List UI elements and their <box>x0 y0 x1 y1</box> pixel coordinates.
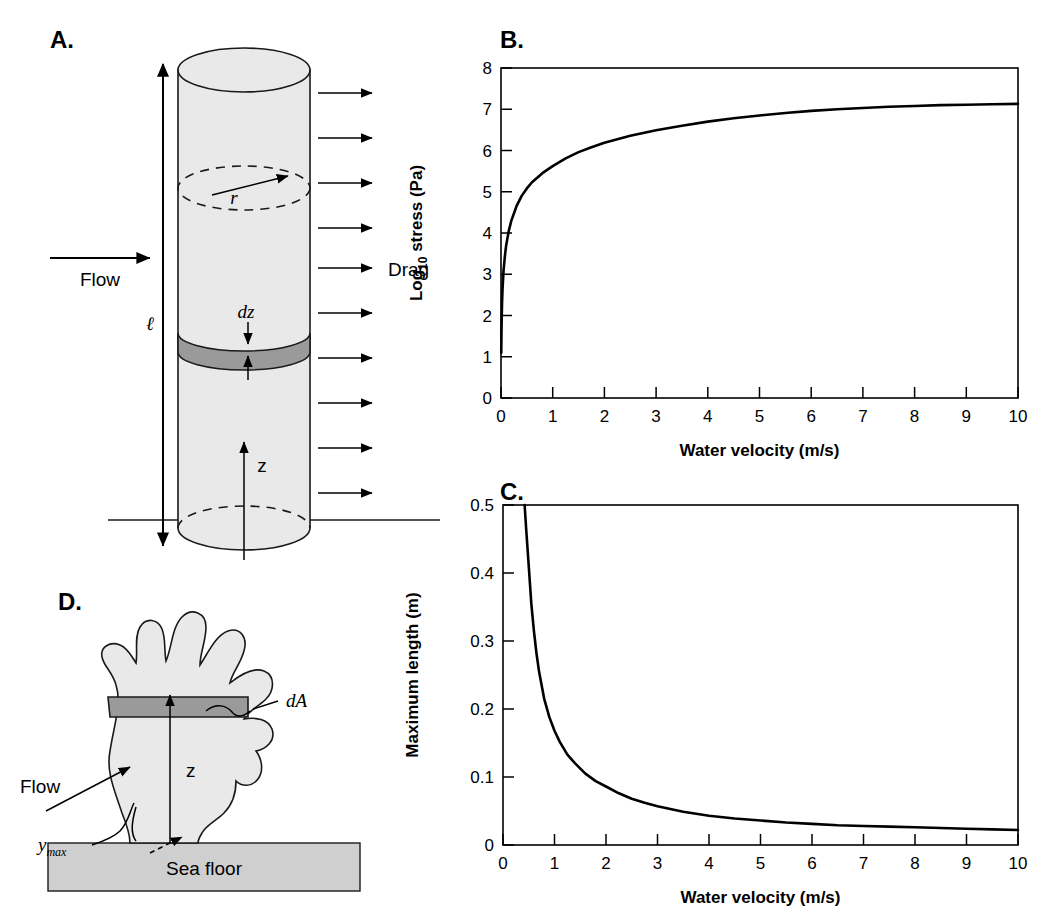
y-axis-title: Log10 stress (Pa) <box>407 165 430 301</box>
x-tick-label: 1 <box>548 407 557 426</box>
y-max-label: ymax <box>36 834 67 859</box>
drag-arrow-group <box>318 93 372 493</box>
radius-label: r <box>230 187 238 208</box>
y-max-subscript: max <box>46 845 67 859</box>
x-tick-label: 3 <box>651 407 660 426</box>
x-tick-label: 9 <box>962 854 971 873</box>
panel-c-chart: 01234567891000.10.20.30.40.5Water veloci… <box>400 470 1058 924</box>
x-tick-label: 4 <box>703 407 712 426</box>
x-tick-label: 8 <box>910 854 919 873</box>
length-label: ℓ <box>146 313 154 334</box>
x-tick-label: 2 <box>600 407 609 426</box>
organism-body <box>102 612 273 843</box>
y-max-base: y <box>36 834 47 855</box>
plot-frame <box>501 68 1018 398</box>
x-tick-label: 7 <box>859 854 868 873</box>
x-tick-label: 10 <box>1009 407 1028 426</box>
y-tick-label: 0.4 <box>470 564 494 583</box>
y-tick-label: 2 <box>483 307 492 326</box>
y-tick-label: 5 <box>483 183 492 202</box>
data-curve <box>501 104 1018 353</box>
cylinder-top-ellipse <box>178 48 310 92</box>
panel-d-diagram: dA z Flow ymax Sea floor <box>10 575 410 924</box>
y-tick-label: 0 <box>483 389 492 408</box>
x-tick-label: 5 <box>755 407 764 426</box>
x-tick-label: 6 <box>806 407 815 426</box>
flow-label: Flow <box>20 776 60 797</box>
dz-label: dz <box>238 301 256 322</box>
x-tick-label: 10 <box>1009 854 1028 873</box>
figure-root: A. r ℓ F <box>0 0 1058 924</box>
z-label: z <box>186 760 196 781</box>
y-tick-label: 8 <box>483 59 492 78</box>
x-tick-label: 0 <box>496 407 505 426</box>
panel-b-chart: 012345678910012345678Water velocity (m/s… <box>400 20 1058 470</box>
x-tick-label: 5 <box>756 854 765 873</box>
flow-label: Flow <box>80 269 120 290</box>
x-tick-label: 9 <box>962 407 971 426</box>
y-tick-label: 3 <box>483 265 492 284</box>
x-tick-label: 7 <box>858 407 867 426</box>
panel-a-diagram: r ℓ Flow dz z Drag <box>0 0 460 575</box>
y-tick-label: 7 <box>483 100 492 119</box>
x-tick-label: 6 <box>807 854 816 873</box>
y-tick-label: 0.3 <box>470 632 494 651</box>
x-axis-title: Water velocity (m/s) <box>680 441 840 460</box>
y-tick-label: 4 <box>483 224 492 243</box>
y-tick-label: 0.5 <box>470 496 494 515</box>
x-tick-label: 4 <box>704 854 713 873</box>
y-tick-label: 6 <box>483 142 492 161</box>
z-label: z <box>257 455 267 476</box>
sea-floor-label: Sea floor <box>166 858 243 879</box>
x-tick-label: 8 <box>910 407 919 426</box>
dA-label: dA <box>286 690 308 711</box>
x-tick-label: 0 <box>498 854 507 873</box>
x-axis-title: Water velocity (m/s) <box>681 888 841 907</box>
y-tick-label: 0.1 <box>470 768 494 787</box>
data-curve <box>525 505 1018 830</box>
x-tick-label: 3 <box>653 854 662 873</box>
y-tick-label: 1 <box>483 348 492 367</box>
x-tick-label: 1 <box>550 854 559 873</box>
y-tick-label: 0 <box>485 836 494 855</box>
x-tick-label: 2 <box>601 854 610 873</box>
plot-frame <box>503 505 1018 845</box>
y-tick-label: 0.2 <box>470 700 494 719</box>
